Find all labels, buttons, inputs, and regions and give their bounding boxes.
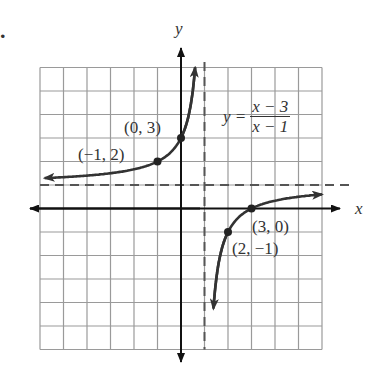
data-point bbox=[224, 228, 232, 236]
plot-svg bbox=[0, 0, 371, 371]
equation-label: y = x − 3 x − 1 bbox=[223, 98, 290, 135]
data-point bbox=[154, 158, 162, 166]
data-point bbox=[248, 205, 256, 213]
equation-denominator: x − 1 bbox=[250, 117, 290, 135]
curve-left-branch-up bbox=[181, 68, 195, 139]
y-axis-label: y bbox=[175, 20, 183, 37]
equation-lhs: y = bbox=[223, 107, 246, 127]
curve-right-branch-down bbox=[213, 232, 228, 309]
graph: . y x y = x − 3 x − 1 (−1, 2) (0, 3) (2,… bbox=[0, 0, 371, 371]
x-axis-label: x bbox=[355, 200, 363, 217]
problem-marker: . bbox=[0, 20, 6, 42]
equation-numerator: x − 3 bbox=[250, 98, 290, 117]
point-label-2-neg1: (2, −1) bbox=[232, 240, 278, 257]
point-label-neg1-2: (−1, 2) bbox=[78, 146, 124, 163]
point-label-0-3: (0, 3) bbox=[124, 119, 161, 136]
data-point bbox=[177, 134, 185, 142]
point-label-3-0: (3, 0) bbox=[252, 218, 289, 235]
